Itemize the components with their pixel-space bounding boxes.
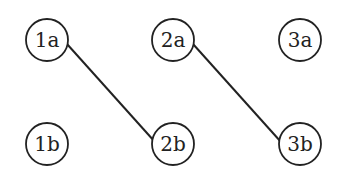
node-2a: 2a [152, 19, 194, 61]
svg-text:3a: 3a [288, 28, 313, 52]
node-1b: 1b [26, 123, 68, 165]
node-1a: 1a [26, 19, 68, 61]
node-2b: 2b [152, 123, 194, 165]
svg-text:1a: 1a [35, 28, 60, 52]
svg-text:2a: 2a [161, 28, 186, 52]
diagram-canvas: 1a 2a 3a 1b 2b 3b [0, 0, 340, 182]
svg-text:1b: 1b [34, 132, 60, 156]
edge-2a-3b [193, 44, 281, 142]
node-3b: 3b [279, 123, 321, 165]
node-3a: 3a [279, 19, 321, 61]
svg-text:2b: 2b [160, 132, 186, 156]
svg-text:3b: 3b [287, 132, 313, 156]
edge-1a-2b [67, 44, 155, 142]
